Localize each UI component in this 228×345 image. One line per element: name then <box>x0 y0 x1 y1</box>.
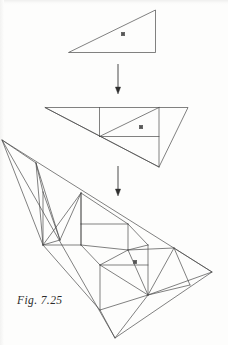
stage-3-triangle-edge <box>100 265 148 295</box>
stage-3-triangle-edge <box>128 250 148 295</box>
stage-3-triangle-edge <box>2 140 43 245</box>
stage-3-triangle-outline <box>2 140 212 338</box>
stage-1-triangle-outline <box>69 10 156 53</box>
figure-caption: Fig. 7.25 <box>17 294 62 306</box>
stage-3-triangle-edge <box>81 193 128 224</box>
stage-1-triangle-marker-dot <box>121 32 124 35</box>
stage-3-triangle-edge <box>115 295 148 338</box>
stage-2-triangle-edge <box>100 108 160 137</box>
stage-3-triangle-edge <box>43 240 60 245</box>
stage-3-triangle-edge <box>2 140 36 163</box>
stage-3-triangle-edge <box>148 272 212 295</box>
stage-3-triangle-edge <box>128 224 148 245</box>
stage-3-triangle-edge <box>174 248 212 272</box>
stage-3-triangle-edge <box>100 295 148 310</box>
stage-1-triangle <box>69 10 156 53</box>
stage-2-triangle <box>45 108 188 168</box>
stage-2-triangle-marker-dot <box>139 125 142 128</box>
stage-2-triangle-edge <box>45 108 159 168</box>
arrow-stage1-to-stage2-head <box>115 87 120 94</box>
stage-3-triangle <box>2 140 212 338</box>
stage-3-triangle-edge <box>81 245 128 250</box>
stage-3-triangle-edge <box>148 248 174 295</box>
figure-page: Fig. 7.25 <box>0 0 228 345</box>
stage-3-triangle-marker-dot <box>133 260 136 263</box>
stage-3-triangle-edge <box>81 245 100 265</box>
stage-arrows <box>115 64 120 196</box>
stage-2-triangle-outline <box>45 108 188 168</box>
stage-3-triangle-edge <box>148 285 190 295</box>
arrow-stage2-to-stage3-head <box>115 189 120 196</box>
stage-3-triangle-edge <box>60 193 81 240</box>
stage-3-triangle-edge <box>43 193 81 245</box>
stage-3-triangle-edge <box>100 250 128 265</box>
stage-3-triangle-edge <box>100 310 115 338</box>
